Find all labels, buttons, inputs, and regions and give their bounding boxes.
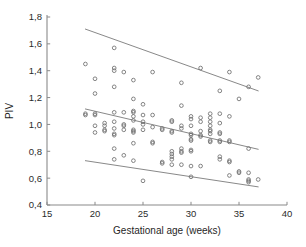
data-point: [112, 147, 116, 151]
data-point: [218, 157, 222, 161]
data-point: [93, 131, 97, 135]
data-point: [237, 97, 241, 101]
data-point: [218, 112, 222, 116]
x-tick-label: 30: [186, 208, 197, 219]
data-point: [199, 116, 203, 120]
data-point: [199, 66, 203, 70]
data-point: [247, 171, 251, 175]
data-point: [189, 117, 193, 121]
y-tick-label: 1,0: [29, 119, 42, 130]
data-point: [141, 179, 145, 183]
data-point: [208, 132, 212, 136]
y-tick-label: 0,6: [29, 173, 42, 184]
data-point: [103, 124, 107, 128]
trend-line-upper-limit: [85, 29, 258, 91]
data-point: [141, 102, 145, 106]
data-point: [180, 81, 184, 85]
y-tick-label: 1,2: [29, 92, 42, 103]
data-point: [208, 112, 212, 116]
data-point: [122, 128, 126, 132]
data-point: [151, 125, 155, 129]
y-axis-title: PIV: [4, 103, 15, 119]
data-point: [112, 110, 116, 114]
data-point: [112, 85, 116, 89]
y-tick-label: 1,4: [29, 65, 42, 76]
data-point: [180, 163, 184, 167]
y-tick-label: 0,8: [29, 146, 42, 157]
data-point: [199, 129, 203, 133]
x-tick-label: 20: [90, 208, 101, 219]
data-point: [218, 121, 222, 125]
chart-canvas: 0,40,60,81,01,21,41,61,8152025303540Gest…: [0, 0, 306, 247]
data-point: [112, 127, 116, 131]
x-tick-label: 15: [42, 208, 53, 219]
data-point: [132, 159, 136, 163]
data-point: [199, 164, 203, 168]
x-axis-title: Gestational age (weeks): [113, 225, 221, 236]
data-point: [208, 116, 212, 120]
data-point: [151, 113, 155, 117]
data-point: [256, 76, 260, 80]
data-point: [180, 104, 184, 108]
data-point: [199, 120, 203, 124]
y-tick-label: 0,4: [29, 199, 42, 210]
data-point: [141, 113, 145, 117]
data-point: [208, 120, 212, 124]
data-point: [228, 115, 232, 119]
data-point: [228, 174, 232, 178]
x-tick-label: 35: [234, 208, 245, 219]
data-point: [132, 78, 136, 82]
data-point: [180, 127, 184, 131]
data-point: [84, 62, 88, 66]
trend-line-lower-limit: [85, 161, 258, 187]
data-point: [132, 97, 136, 101]
x-tick-label: 40: [282, 208, 293, 219]
data-point: [228, 70, 232, 74]
data-point: [218, 89, 222, 93]
data-point: [132, 141, 136, 145]
data-point: [93, 77, 97, 81]
data-point: [122, 110, 126, 114]
y-tick-label: 1,8: [29, 11, 42, 22]
data-point: [189, 124, 193, 128]
data-point: [112, 120, 116, 124]
data-point: [112, 69, 116, 73]
x-tick-label: 25: [138, 208, 149, 219]
data-point: [189, 164, 193, 168]
data-point: [93, 92, 97, 96]
data-point: [141, 128, 145, 132]
data-point: [112, 46, 116, 50]
data-point: [170, 163, 174, 167]
data-point: [122, 70, 126, 74]
data-point: [256, 178, 260, 182]
data-point: [132, 115, 136, 119]
y-tick-label: 1,6: [29, 38, 42, 49]
data-point: [151, 70, 155, 74]
data-point: [208, 124, 212, 128]
data-point: [170, 157, 174, 161]
data-point: [112, 157, 116, 161]
data-point: [141, 123, 145, 127]
scatter-plot-figure: 0,40,60,81,01,21,41,61,8152025303540Gest…: [0, 0, 306, 247]
data-point: [122, 153, 126, 157]
data-point: [93, 124, 97, 128]
